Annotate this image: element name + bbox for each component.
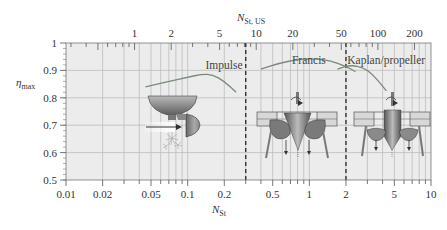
x-tick-label: 0.01 (56, 188, 75, 200)
x2-axis-title: NSt, US (236, 11, 265, 26)
x2-tick-label: 100 (370, 27, 387, 39)
x2-tick-label: 10 (251, 27, 263, 39)
x-tick-label: 0.05 (141, 188, 161, 200)
x2-tick-label: 5 (217, 27, 223, 39)
y-tick-label: 0.5 (43, 174, 57, 186)
y-axis: 0.50.60.70.80.91 (43, 37, 66, 186)
x2-tick-label: 50 (336, 27, 348, 39)
y-tick-label: 0.6 (43, 147, 57, 159)
x2-tick-label: 200 (406, 27, 423, 39)
curve-label: Francis (292, 54, 326, 66)
x-tick-label: 10 (426, 188, 438, 200)
x2-tick-label: 1 (132, 27, 138, 39)
x-tick-label: 0.1 (181, 188, 195, 200)
x-axis-title: NSt (211, 203, 227, 218)
x-tick-label: 0.02 (93, 188, 112, 200)
y-tick-label: 0.8 (43, 92, 57, 104)
y-tick-label: 1 (52, 37, 58, 49)
x2-tick-label: 20 (287, 27, 299, 39)
x-tick-label: 1 (307, 188, 313, 200)
y-tick-label: 0.7 (43, 119, 57, 131)
x-axis-bottom: 0.010.020.050.10.20.512510 (56, 180, 437, 200)
x-tick-label: 0.5 (266, 188, 280, 200)
y-tick-label: 0.9 (43, 64, 57, 76)
curve-label: Kaplan/propeller (347, 54, 425, 67)
y-axis-title: ηmax (16, 76, 35, 91)
x-tick-label: 5 (392, 188, 398, 200)
curve-label: Impulse (205, 59, 242, 72)
x-tick-label: 2 (343, 188, 349, 200)
efficiency-vs-specific-speed-chart: ImpulseFrancisKaplan/propeller 0.50.60.7… (0, 0, 447, 230)
x-tick-label: 0.2 (217, 188, 231, 200)
x2-tick-label: 2 (168, 27, 174, 39)
